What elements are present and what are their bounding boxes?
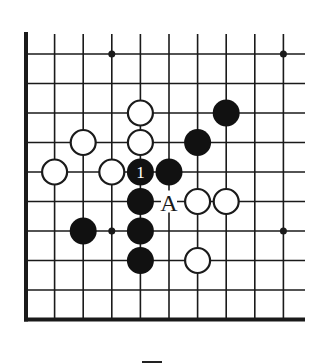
star-point [280,228,287,235]
markers: A [160,190,178,216]
white-stone [71,130,96,155]
star-point [108,51,115,58]
black-stone [70,218,97,245]
marker-label: A [160,190,178,216]
white-stone [42,160,67,185]
white-stone [214,189,239,214]
black-stone [213,100,240,127]
black-stone [127,188,154,215]
white-stone [99,160,124,185]
star-point [108,228,115,235]
black-stone [127,247,154,274]
black-stone [184,129,211,156]
white-stone [185,248,210,273]
go-board: 1 A [0,0,327,363]
star-point [280,51,287,58]
white-stone [185,189,210,214]
black-stone [127,218,154,245]
stone-move-number: 1 [136,163,145,182]
black-stone [156,159,183,186]
white-stone [128,130,153,155]
white-stone [128,101,153,126]
